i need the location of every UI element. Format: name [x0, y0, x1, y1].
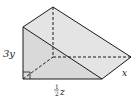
prism-diagram: 3y 1 2 z x — [0, 0, 140, 104]
base-variable-label: z — [59, 87, 65, 97]
base-fraction-denominator: 2 — [55, 90, 59, 97]
height-label: 3y — [3, 48, 15, 59]
base-fraction-numerator: 1 — [55, 83, 59, 90]
depth-label: x — [122, 68, 127, 78]
